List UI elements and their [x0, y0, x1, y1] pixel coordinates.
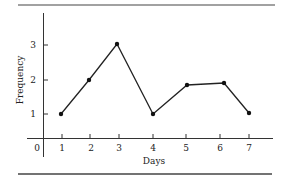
- y-tick-label: 2: [30, 75, 36, 85]
- y-ticks: [44, 45, 49, 114]
- x-tick-label: 3: [116, 143, 122, 153]
- data-point-day-2: [87, 78, 91, 82]
- data-markers: [59, 42, 251, 116]
- data-point-day-1: [59, 112, 63, 116]
- x-axis-label: Days: [143, 156, 166, 166]
- data-point-day-3: [115, 42, 119, 46]
- y-tick-label: 1: [30, 109, 36, 119]
- x-tick-labels: 0 1 2 3 4 5 6 7: [34, 143, 252, 153]
- x-tick-label: 6: [217, 143, 223, 153]
- data-point-day-7: [247, 111, 251, 115]
- x-tick-label: 7: [246, 143, 252, 153]
- x-tick-label: 2: [88, 143, 94, 153]
- x-tick-label: 1: [59, 143, 65, 153]
- frequency-line-chart: 1 2 3 Frequency 0 1 2 3 4 5 6 7 Days: [0, 0, 285, 179]
- x-tick-label-origin: 0: [34, 143, 40, 153]
- y-tick-labels: 1 2 3: [30, 40, 36, 119]
- x-ticks: [62, 134, 249, 139]
- y-axis-label: Frequency: [15, 55, 25, 105]
- y-tick-label: 3: [30, 40, 36, 50]
- data-point-day-4: [151, 112, 155, 116]
- data-point-day-6: [222, 81, 226, 85]
- x-tick-label: 5: [183, 143, 189, 153]
- x-tick-label: 4: [150, 143, 156, 153]
- data-point-day-5: [185, 83, 189, 87]
